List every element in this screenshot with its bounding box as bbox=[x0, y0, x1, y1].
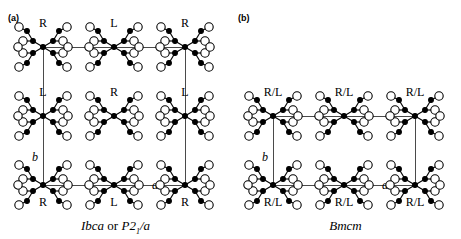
chirality-label-a-r3c2: L bbox=[110, 196, 117, 208]
chirality-label-a-r3c3: R bbox=[181, 196, 189, 208]
caption-a-part1: Ibca bbox=[81, 218, 104, 233]
caption-a-part2-tail: /a bbox=[140, 218, 150, 233]
chirality-label-b-r1c3: R/L bbox=[406, 86, 425, 98]
caption-panel-b: Bmcm bbox=[230, 218, 461, 234]
chirality-label-a-r1c1: R bbox=[39, 17, 47, 29]
chirality-label-b-r1c1: R/L bbox=[264, 86, 283, 98]
chirality-label-b-r2c2: R/L bbox=[335, 196, 354, 208]
chirality-label-a-r2c1: L bbox=[39, 86, 46, 98]
panel-b: (b) b a bbox=[230, 0, 461, 239]
chirality-label-a-r2c2: R bbox=[110, 86, 118, 98]
caption-a-conjunction: or bbox=[107, 218, 118, 233]
caption-b-part1: Bmcm bbox=[329, 218, 362, 233]
chirality-label-a-r1c2: L bbox=[110, 17, 117, 29]
caption-a-part2-base: P2 bbox=[121, 218, 135, 233]
chirality-label-b-r2c1: R/L bbox=[264, 196, 283, 208]
chirality-label-a-r2c3: L bbox=[181, 86, 188, 98]
chirality-label-b-r2c3: R/L bbox=[406, 196, 425, 208]
panel-b-label: (b) bbox=[238, 13, 250, 23]
panel-a: (a) b a bbox=[0, 0, 231, 239]
chirality-label-b-r1c2: R/L bbox=[335, 86, 354, 98]
chirality-label-a-r3c1: R bbox=[39, 196, 47, 208]
chirality-label-a-r1c3: R bbox=[181, 17, 189, 29]
caption-panel-a: Ibca or P21/a bbox=[0, 218, 231, 236]
